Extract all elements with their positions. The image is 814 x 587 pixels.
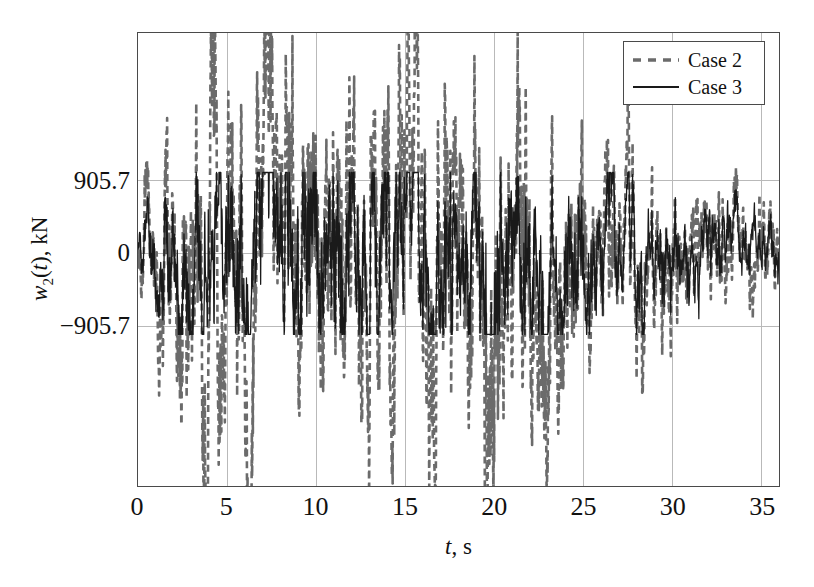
x-tick-label: 5 (220, 492, 233, 522)
legend-item-case-3: Case 3 (632, 73, 758, 100)
x-axis-title: t, s (137, 534, 780, 560)
chart-legend: Case 2 Case 3 (623, 41, 765, 105)
legend-label-case-3: Case 3 (688, 77, 742, 97)
x-tick-label: 25 (571, 492, 597, 522)
y-axis-title-unit: , kN (27, 217, 52, 257)
x-axis-title-unit: , s (451, 534, 471, 559)
y-tick-label-upper: 905.7 (74, 168, 130, 193)
y-axis-title-arg: (t) (27, 256, 52, 278)
y-axis-title: w2(t), kN (27, 129, 57, 389)
chart-figure: 905.7 0 −905.7 w2(t), kN 05101520253035 … (0, 0, 814, 587)
y-axis-tick-labels: 905.7 0 −905.7 (0, 0, 130, 587)
x-tick-label: 0 (131, 492, 144, 522)
legend-label-case-2: Case 2 (688, 50, 742, 70)
y-axis-title-sub: 2 (40, 278, 56, 286)
x-tick-label: 15 (392, 492, 418, 522)
y-tick-label-lower: −905.7 (60, 313, 130, 338)
x-tick-label: 10 (303, 492, 329, 522)
x-tick-label: 30 (660, 492, 686, 522)
legend-solid-line-icon (632, 80, 680, 94)
x-tick-label: 20 (481, 492, 507, 522)
legend-dashed-line-icon (632, 53, 680, 67)
y-tick-label-zero: 0 (118, 240, 131, 265)
x-axis-tick-labels: 05101520253035 (137, 492, 780, 532)
x-tick-label: 35 (749, 492, 775, 522)
legend-item-case-2: Case 2 (632, 46, 758, 73)
y-axis-title-var: w (27, 286, 52, 301)
